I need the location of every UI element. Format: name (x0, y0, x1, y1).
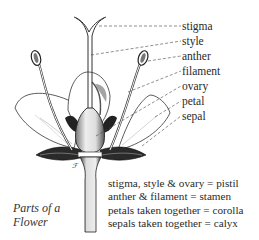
summary-corolla: petals taken together = corolla (108, 204, 244, 217)
label-stigma: stigma (182, 20, 213, 33)
summary-legend: stigma, style & ovary = pistil anther & … (108, 177, 244, 231)
stem (80, 157, 101, 232)
label-anther: anther (182, 50, 211, 63)
summary-pistil: stigma, style & ovary = pistil (108, 177, 244, 190)
label-filament: filament (182, 65, 220, 78)
label-style: style (182, 35, 204, 48)
diagram-title-line1: Parts of a (13, 201, 60, 216)
label-sepal: sepal (182, 110, 206, 123)
petal-right (118, 95, 170, 150)
artist-monogram: ℱ (72, 162, 79, 170)
label-ovary: ovary (182, 80, 208, 93)
summary-stamen: anther & filament = stamen (108, 190, 244, 203)
label-petal: petal (182, 95, 204, 108)
diagram-title-line2: Flower (13, 215, 48, 230)
summary-calyx: sepals taken together = calyx (108, 217, 244, 230)
